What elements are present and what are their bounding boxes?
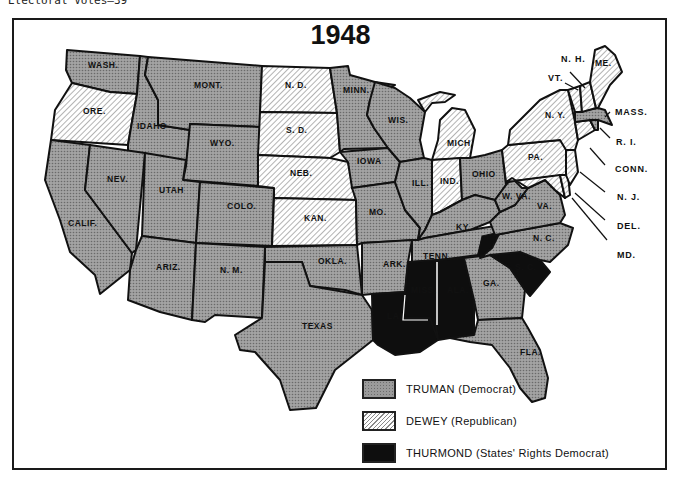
dewey-swatch bbox=[362, 411, 396, 431]
label-nh: N. H. bbox=[561, 54, 586, 64]
label-miss: MISS. bbox=[411, 285, 437, 295]
state-ariz bbox=[128, 236, 196, 320]
label-nev: NEV. bbox=[107, 174, 128, 184]
label-me: ME. bbox=[595, 58, 612, 68]
label-wyo: WYO. bbox=[210, 138, 235, 148]
state-mont bbox=[145, 57, 262, 130]
label-fla: FLA. bbox=[520, 347, 541, 357]
label-ill: ILL. bbox=[412, 178, 429, 188]
label-wash: WASH. bbox=[88, 60, 118, 70]
label-kan: KAN. bbox=[304, 213, 327, 223]
label-ala: ALA. bbox=[447, 285, 469, 295]
label-conn: CONN. bbox=[615, 164, 648, 174]
legend-label-dewey: DEWEY (Republican) bbox=[406, 415, 517, 427]
label-del: DEL. bbox=[617, 221, 641, 231]
label-ky: KY. bbox=[456, 222, 471, 232]
label-calif: CALIF. bbox=[68, 218, 97, 228]
label-mont: MONT. bbox=[194, 80, 223, 90]
label-mo: MO. bbox=[369, 207, 387, 217]
legend-item-thurmond: THURMOND (States' Rights Democrat) bbox=[362, 437, 609, 469]
label-ind: IND. bbox=[440, 176, 459, 186]
legend-item-truman: TRUMAN (Democrat) bbox=[362, 373, 609, 405]
label-nj: N. J. bbox=[617, 192, 640, 202]
label-sd: S. D. bbox=[286, 125, 307, 135]
label-ark: ARK. bbox=[383, 259, 406, 269]
label-mich: MICH. bbox=[447, 138, 474, 148]
label-mass: MASS. bbox=[615, 107, 648, 117]
truman-swatch bbox=[362, 379, 396, 399]
label-ohio: OHIO bbox=[472, 169, 496, 179]
label-okla: OKLA. bbox=[318, 256, 347, 266]
label-ny: N. Y. bbox=[545, 110, 565, 120]
label-vt: VT. bbox=[548, 73, 563, 83]
label-wva: W. VA. bbox=[502, 191, 531, 201]
label-neb: NEB. bbox=[290, 168, 312, 178]
label-ore: ORE. bbox=[83, 106, 106, 116]
legend: TRUMAN (Democrat) DEWEY (Republican) THU… bbox=[362, 373, 609, 469]
state-colo bbox=[196, 182, 274, 246]
label-nd: N. D. bbox=[285, 80, 307, 90]
label-sc: S. C. bbox=[515, 262, 536, 272]
state-me bbox=[590, 46, 622, 108]
label-colo: COLO. bbox=[227, 201, 256, 211]
label-utah: UTAH bbox=[159, 185, 184, 195]
state-nj bbox=[566, 150, 578, 185]
legend-label-truman: TRUMAN (Democrat) bbox=[406, 383, 516, 395]
state-wyo bbox=[183, 124, 260, 186]
legend-item-dewey: DEWEY (Republican) bbox=[362, 405, 609, 437]
label-md: MD. bbox=[617, 250, 636, 260]
label-iowa: IOWA bbox=[357, 156, 382, 166]
legend-label-thurmond: THURMOND (States' Rights Democrat) bbox=[406, 447, 609, 459]
state-mich bbox=[418, 92, 475, 160]
thurmond-swatch bbox=[362, 443, 396, 463]
label-tenn: TENN. bbox=[423, 251, 451, 261]
state-sd bbox=[258, 112, 340, 158]
label-minn: MINN. bbox=[343, 85, 370, 95]
label-la: LA. bbox=[387, 311, 402, 321]
state-ny bbox=[508, 90, 578, 150]
label-ga: GA. bbox=[483, 278, 500, 288]
label-texas: TEXAS bbox=[302, 321, 333, 331]
label-ri: R. I. bbox=[616, 137, 637, 147]
label-ariz: ARIZ. bbox=[156, 262, 181, 272]
label-nm: N. M. bbox=[220, 265, 243, 275]
label-va: VA. bbox=[537, 201, 552, 211]
label-pa: PA. bbox=[528, 152, 543, 162]
label-wis: WIS. bbox=[388, 115, 408, 125]
label-idaho: IDAHO bbox=[137, 121, 167, 131]
state-nm bbox=[192, 243, 265, 322]
label-nc: N. C. bbox=[533, 233, 555, 243]
